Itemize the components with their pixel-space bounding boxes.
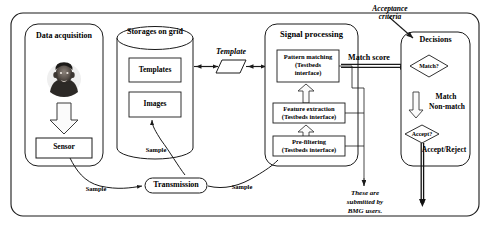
- sample-sensor-label: Sample: [76, 186, 116, 193]
- accept-reject-label: Accept/Reject: [412, 146, 476, 154]
- bmg-note-line1: These are: [334, 190, 396, 197]
- template-edge-label: Template: [200, 48, 262, 56]
- bmg-note-line3: BMG users.: [334, 208, 396, 215]
- feature-extraction-line1: Feature extraction: [273, 106, 345, 113]
- diagram-canvas: Data acquisition Sensor Storages on grid…: [0, 0, 490, 232]
- sensor-label: Sensor: [36, 143, 92, 151]
- storage-label: Storages on grid: [120, 28, 190, 36]
- bmg-note-line2: submitted by: [334, 199, 396, 206]
- pattern-matching-line3: interface): [277, 70, 339, 77]
- feature-extraction-line2: (Testbeds interface): [273, 114, 345, 121]
- transmission-label: Transmission: [145, 181, 207, 189]
- pre-filtering-line2: (Testbeds interface): [273, 147, 345, 154]
- images-label: Images: [129, 100, 181, 108]
- match-label: Match: [420, 93, 472, 101]
- template-flow-connector: [194, 60, 266, 73]
- sample-signal-label: Sample: [222, 184, 262, 191]
- sample-storage-label: Sample: [136, 147, 176, 154]
- pattern-matching-line1: Pattern matching: [277, 54, 339, 61]
- templates-label: Templates: [129, 66, 181, 74]
- match-score-label: Match score: [336, 54, 402, 62]
- decisions-label: Decisions: [401, 36, 470, 44]
- signal-processing-label: Signal processing: [265, 30, 358, 39]
- pattern-matching-line2: (Testbeds: [277, 62, 339, 69]
- match-diamond-label: Match?: [412, 63, 446, 69]
- accept-diamond-label: Accept?: [406, 131, 438, 137]
- pre-filtering-line1: Pre-filtering: [273, 139, 345, 146]
- data-acquisition-label: Data acquisition: [25, 32, 103, 40]
- acceptance-criteria-line2: criteria: [350, 13, 430, 21]
- non-match-label: Non-match: [418, 103, 476, 111]
